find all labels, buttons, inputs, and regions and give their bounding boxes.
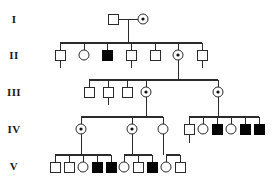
individual-IV-5-circle[interactable] [198,124,208,134]
individual-II-4-square[interactable] [126,50,136,60]
generation-label-5: V [10,160,18,172]
individual-V-10-square[interactable] [175,162,185,172]
individual-V-9-circle[interactable] [161,162,171,172]
individual-IV-9-square-affected[interactable] [254,124,264,134]
carrier-dot-icon [79,127,82,130]
individual-V-8-square-affected[interactable] [147,162,157,172]
individual-II-2-circle[interactable] [79,50,89,60]
generation-row-2 [55,50,207,60]
generation-label-2: II [9,49,18,61]
individual-II-7-square[interactable] [197,50,207,60]
carrier-dot-icon [130,127,133,130]
individual-V-6-circle[interactable] [119,162,129,172]
individual-V-1-square[interactable] [50,162,60,172]
generation-row-3 [84,87,223,97]
generation-label-3: III [7,86,21,98]
individual-IV-7-circle[interactable] [226,124,236,134]
generation-row-5 [50,162,185,172]
individual-I-1-square[interactable] [108,14,118,24]
individual-II-1-square[interactable] [55,50,65,60]
individual-III-1-square[interactable] [84,87,94,97]
generation-label-1: I [12,13,17,25]
generation-label-4: IV [7,123,20,135]
individual-IV-6-square-affected[interactable] [212,124,222,134]
individual-IV-8-square-affected[interactable] [240,124,250,134]
individual-IV-3-circle[interactable] [158,124,168,134]
individual-III-2-square[interactable] [103,87,113,97]
individual-V-7-square[interactable] [133,162,143,172]
individual-V-2-square[interactable] [64,162,74,172]
pedigree-canvas: I II III IV V [0,0,272,182]
carrier-dot-icon [176,53,179,56]
individual-V-5-square-affected[interactable] [106,162,116,172]
individual-V-4-square-affected[interactable] [92,162,102,172]
individual-III-3-square[interactable] [122,87,132,97]
generation-row-4 [76,124,264,134]
carrier-dot-icon [216,90,219,93]
pedigree-chart: I II III IV V [0,0,272,182]
individual-II-5-square[interactable] [150,50,160,60]
individual-II-3-square-affected[interactable] [102,50,112,60]
carrier-dot-icon [144,90,147,93]
individual-IV-4-square[interactable] [184,124,194,134]
generation-label-group: I II III IV V [7,13,21,172]
carrier-dot-icon [141,17,144,20]
individual-V-3-circle[interactable] [78,162,88,172]
